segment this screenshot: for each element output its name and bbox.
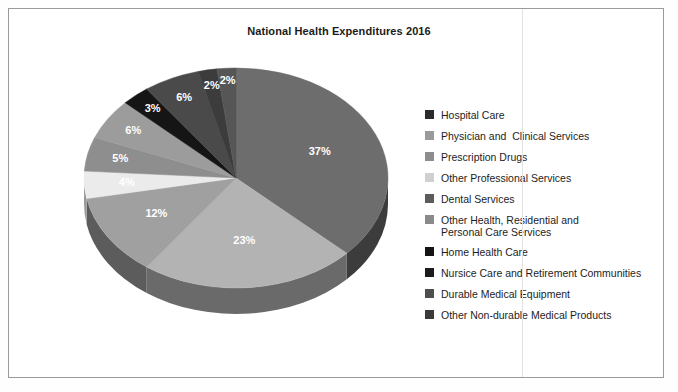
legend-color-swatch-icon <box>425 289 434 298</box>
legend-item[interactable]: Hospital Care <box>425 109 660 121</box>
legend-color-swatch-icon <box>425 110 434 119</box>
legend-item-label: Physician and Clinical Services <box>441 130 589 142</box>
pie-slice-label: 2% <box>220 74 236 86</box>
pie-slice-label: 3% <box>145 102 161 114</box>
pie-slice-label: 4% <box>119 176 135 188</box>
legend-color-swatch-icon <box>425 268 434 277</box>
legend-item-label: Other Non-durable Medical Products <box>441 309 611 321</box>
legend-item[interactable]: Physician and Clinical Services <box>425 130 660 142</box>
pie-chart: 37%23%12%4%5%6%3%6%2%2% <box>36 48 436 348</box>
legend-color-swatch-icon <box>425 310 434 319</box>
legend-item-label: Nursice Care and Retirement Communities <box>441 267 641 279</box>
legend-color-swatch-icon <box>425 247 434 256</box>
legend-item-label: Prescription Drugs <box>441 151 527 163</box>
legend-item-label: Hospital Care <box>441 109 505 121</box>
legend-item[interactable]: Home Health Care <box>425 246 660 258</box>
legend-item[interactable]: Other Professional Services <box>425 172 660 184</box>
pie-slice-label: 37% <box>309 145 331 157</box>
pie-slice-label: 6% <box>125 124 141 136</box>
pie-slice-label: 5% <box>112 152 128 164</box>
legend-item[interactable]: Other Non-durable Medical Products <box>425 309 660 321</box>
chart-legend: Hospital CarePhysician and Clinical Serv… <box>425 109 660 330</box>
pie-slice-label: 6% <box>176 91 192 103</box>
legend-item[interactable]: Dental Services <box>425 193 660 205</box>
legend-item-label: Durable Medical Equipment <box>441 288 570 300</box>
legend-color-swatch-icon <box>425 173 434 182</box>
legend-color-swatch-icon <box>425 152 434 161</box>
legend-color-swatch-icon <box>425 194 434 203</box>
pie-slice-label: 2% <box>204 79 220 91</box>
legend-item-label: Other Health, Residential and Personal C… <box>441 214 579 238</box>
pie-slice-label: 12% <box>145 207 167 219</box>
page-background: National Health Expenditures 2016 37%23%… <box>0 0 678 392</box>
legend-color-swatch-icon <box>425 215 434 224</box>
pie-chart-svg: 37%23%12%4%5%6%3%6%2%2% <box>36 48 436 348</box>
legend-item[interactable]: Prescription Drugs <box>425 151 660 163</box>
pie-slice-label: 23% <box>233 234 255 246</box>
legend-item[interactable]: Durable Medical Equipment <box>425 288 660 300</box>
legend-item[interactable]: Nursice Care and Retirement Communities <box>425 267 660 279</box>
legend-item[interactable]: Other Health, Residential and Personal C… <box>425 214 660 238</box>
legend-color-swatch-icon <box>425 131 434 140</box>
legend-item-label: Home Health Care <box>441 246 528 258</box>
legend-item-label: Other Professional Services <box>441 172 571 184</box>
legend-item-label: Dental Services <box>441 193 515 205</box>
chart-title: National Health Expenditures 2016 <box>0 25 678 37</box>
